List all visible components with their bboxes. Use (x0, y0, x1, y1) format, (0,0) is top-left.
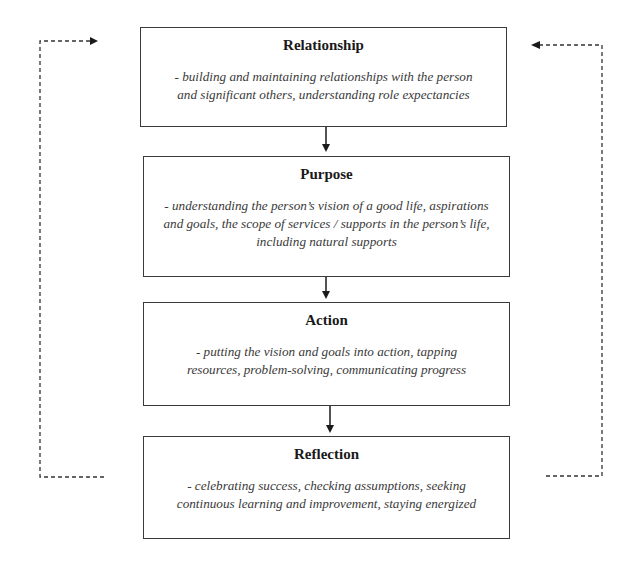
stage-title: Purpose (144, 165, 509, 183)
arrow-left-icon (531, 41, 540, 49)
dashed-feedback-loop-left (40, 37, 104, 477)
arrow-right-icon (90, 37, 98, 45)
stage-title: Reflection (144, 445, 509, 463)
stage-box-relationship: Relationship - building and maintaining … (140, 27, 507, 127)
dashed-feedback-loop-right (531, 41, 602, 476)
stage-box-reflection: Reflection - celebrating success, checki… (143, 436, 510, 539)
stage-box-purpose: Purpose - understanding the person’s vis… (143, 156, 510, 277)
stage-title: Relationship (141, 36, 506, 54)
stage-title: Action (144, 311, 509, 329)
stage-description: - putting the vision and goals into acti… (170, 343, 483, 379)
stage-description: - building and maintaining relationships… (163, 68, 484, 104)
stage-description: - understanding the person’s vision of a… (158, 197, 495, 251)
stage-description: - celebrating success, checking assumpti… (166, 477, 487, 513)
stage-box-action: Action - putting the vision and goals in… (143, 302, 510, 406)
